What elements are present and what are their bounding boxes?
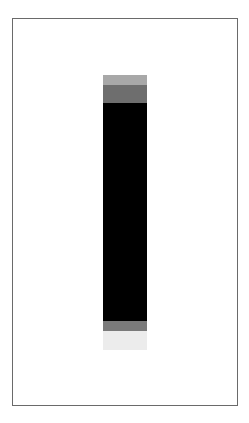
vertical-bar bbox=[103, 75, 147, 350]
top-light-band bbox=[103, 75, 147, 85]
bottom-mid-band bbox=[103, 321, 147, 331]
core-black-band bbox=[103, 103, 147, 321]
bottom-light-band bbox=[103, 331, 147, 350]
top-mid-band bbox=[103, 85, 147, 103]
